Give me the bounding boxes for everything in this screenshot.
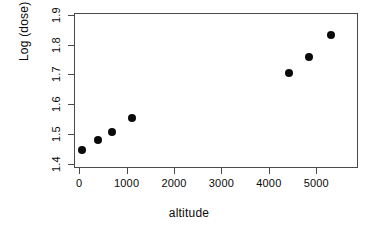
y-axis-tick (68, 104, 74, 105)
x-axis-tick (174, 168, 175, 174)
y-axis-tick-label: 1.4 (48, 152, 64, 176)
x-axis-tick (127, 168, 128, 174)
y-axis-tick-label: 1.5 (48, 122, 64, 146)
x-axis-tick (221, 168, 222, 174)
data-point (327, 31, 335, 39)
scatter-plot-figure: Log (dose) altitude 01000200030004000500… (0, 0, 378, 240)
y-axis-title: Log (dose) (17, 45, 31, 61)
y-axis-tick (68, 164, 74, 165)
x-axis-tick-label: 1000 (114, 177, 139, 189)
x-axis-tick-label: 5000 (304, 177, 329, 189)
x-axis-tick-label: 2000 (161, 177, 186, 189)
y-axis-tick-label: 1.7 (48, 62, 64, 86)
x-axis-tick (316, 168, 317, 174)
y-axis-tick (68, 74, 74, 75)
x-axis-tick (269, 168, 270, 174)
x-axis-title: altitude (0, 206, 378, 220)
y-axis-tick (68, 45, 74, 46)
y-axis-tick-label: 1.6 (48, 92, 64, 116)
y-axis-tick-label: 1.8 (48, 33, 64, 57)
y-axis-tick (68, 15, 74, 16)
x-axis-tick (79, 168, 80, 174)
x-axis-tick-label: 3000 (209, 177, 234, 189)
x-axis-tick-label: 4000 (256, 177, 281, 189)
data-point (305, 53, 313, 61)
x-axis-tick-label: 0 (76, 177, 82, 189)
plot-area (74, 13, 358, 168)
y-axis-tick-label: 1.9 (48, 3, 64, 27)
y-axis-tick (68, 134, 74, 135)
